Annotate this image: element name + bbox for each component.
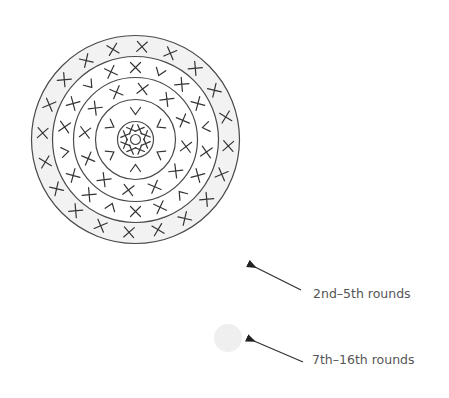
arrow-icon — [254, 341, 303, 362]
grey-swatch-icon — [214, 324, 242, 352]
legend-label-7th-16th-rounds: 7th–16th rounds — [312, 352, 415, 367]
legend-graphics — [214, 267, 303, 362]
legend-label-2nd-5th-rounds: 2nd–5th rounds — [313, 286, 411, 301]
round-chart-diagram — [0, 0, 449, 398]
round-circle — [131, 135, 141, 145]
arrow-icon — [255, 267, 301, 290]
